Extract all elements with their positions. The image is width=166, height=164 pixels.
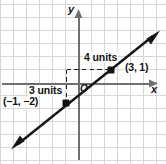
plot-layer (0, 0, 166, 164)
point-marker-upper (108, 67, 115, 74)
point-marker-lower (63, 100, 70, 107)
x-axis-label: x (151, 84, 157, 95)
rise-annotation-label: 3 units (28, 85, 63, 96)
point-label-lower: (−1, −2) (2, 96, 39, 107)
y-axis-label: y (68, 4, 74, 15)
graph-figure: y x O 4 units 3 units (−1, −2) (3, 1) (0, 0, 166, 164)
origin-label: O (80, 84, 88, 94)
point-label-upper: (3, 1) (124, 62, 149, 73)
run-annotation-label: 4 units (83, 52, 118, 63)
